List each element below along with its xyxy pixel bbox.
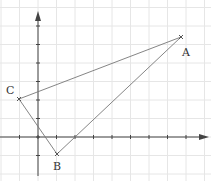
y-axis-arrow-icon bbox=[35, 11, 41, 21]
point-marker-a bbox=[179, 35, 183, 39]
axes bbox=[0, 11, 209, 176]
triangle-plot: ABC bbox=[0, 0, 211, 181]
grid-lines bbox=[0, 0, 211, 181]
coordinate-diagram: ABC bbox=[0, 0, 211, 181]
point-label-a: A bbox=[181, 46, 191, 59]
point-label-b: B bbox=[53, 160, 61, 173]
triangle-abc bbox=[19, 37, 181, 154]
point-label-c: C bbox=[6, 84, 14, 97]
